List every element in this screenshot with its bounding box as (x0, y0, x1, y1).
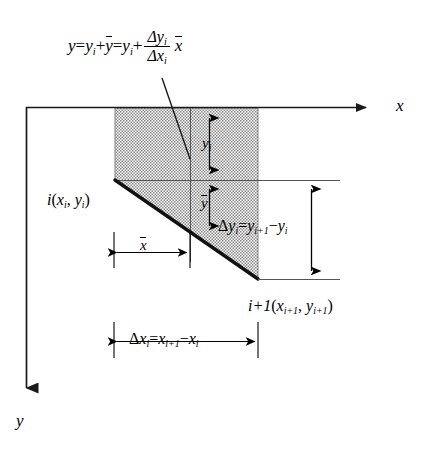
eq-plus-1: + (96, 36, 106, 55)
eq-yi-b-sub: i (130, 46, 133, 57)
label-point-i-plus-1: i+1(xi+1, yi+1) (248, 298, 333, 314)
dy-rhs-var2: y (278, 217, 285, 234)
point-ip1-sub-y: i+1 (313, 305, 327, 316)
point-i-comma: , (67, 191, 71, 208)
eq-plus-2: + (133, 36, 143, 55)
eq-fraction-numerator: Δyi (144, 29, 169, 47)
eq-fraction-denominator: Δxi (144, 47, 169, 64)
eq-equals-2: = (113, 36, 123, 55)
dimension-xbar (114, 232, 190, 268)
label-dimension-yi: yi (202, 136, 211, 151)
dy-delta: Δ (218, 217, 228, 234)
label-point-i: i(xi, yi) (47, 192, 90, 208)
dx-rhs-sub2: i (196, 338, 199, 349)
label-dimension-xbar: x (140, 238, 147, 253)
y-axis-label: y (16, 412, 24, 429)
point-i-var-y: y (75, 191, 82, 208)
point-ip1-prefix: i+1 (248, 297, 271, 314)
label-dimension-ybar: y (201, 196, 208, 211)
point-i-sub-y: i (82, 199, 85, 210)
eq-yi-a-sub: i (93, 46, 96, 57)
eq-xbar: x (175, 37, 183, 54)
main-equation-label: y=yi+y=yi+ΔyiΔxix (68, 30, 182, 65)
eq-den-var: x (157, 47, 164, 64)
point-ip1-close-paren: ) (328, 297, 333, 314)
eq-num-var: y (157, 28, 164, 45)
eq-den-delta: Δ (147, 47, 156, 64)
label-dimension-delta-yi: Δyi=yi+1−yi (218, 218, 288, 234)
dx-rhs-sub1: i+1 (165, 338, 179, 349)
x-axis-label: x (396, 97, 404, 114)
point-i-sub-x: i (64, 199, 67, 210)
eq-num-sub: i (164, 36, 167, 47)
dy-minus: − (269, 217, 278, 234)
dx-minus: − (180, 330, 189, 347)
eq-yi-a: y (85, 36, 93, 55)
dy-sub: i (235, 225, 238, 236)
dx-sub: i (146, 338, 149, 349)
dx-rhs-var2: x (189, 330, 196, 347)
eq-den-sub: i (164, 55, 167, 66)
label-dimension-delta-xi: Δxi=xi+1−xi (129, 331, 199, 347)
point-ip1-comma: , (298, 297, 302, 314)
point-i-close-paren: ) (85, 191, 90, 208)
figure-diagram: y=yi+y=yi+ΔyiΔxix i(xi, yi) i+1(xi+1, yi… (0, 0, 429, 450)
point-ip1-sub-x: i+1 (284, 305, 298, 316)
dx-equals: = (149, 330, 158, 347)
eq-lhs: y (68, 36, 76, 55)
xbar-var: x (140, 238, 147, 253)
eq-yi-b: y (122, 36, 130, 55)
eq-num-delta: Δ (147, 28, 156, 45)
ybar-var: y (201, 196, 208, 211)
eq-equals-1: = (76, 36, 86, 55)
dy-rhs-sub1: i+1 (254, 225, 268, 236)
dx-delta: Δ (129, 330, 139, 347)
eq-fraction: ΔyiΔxi (144, 29, 169, 64)
yi-var: y (202, 135, 209, 151)
yi-sub: i (209, 143, 212, 153)
point-i-var-x: x (57, 191, 64, 208)
eq-ybar: y (105, 37, 113, 54)
dy-equals: = (238, 217, 247, 234)
point-ip1-var-x: x (277, 297, 284, 314)
figure-vector-canvas (0, 0, 429, 450)
dy-rhs-sub2: i (285, 225, 288, 236)
